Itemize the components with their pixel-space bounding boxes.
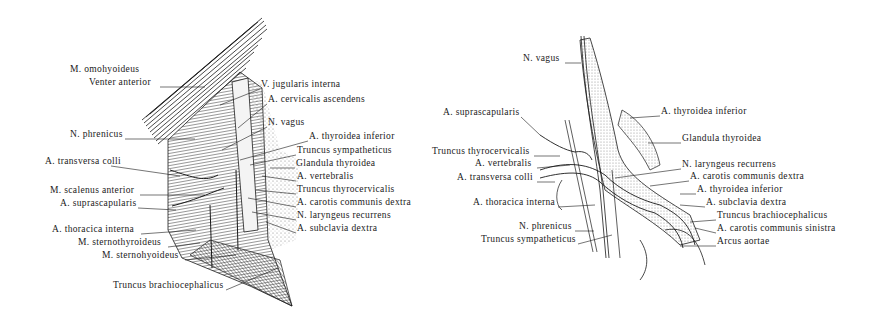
label-a-subclavia-dextra: A. subclavia dextra xyxy=(706,197,786,208)
label-truncus-sympatheticus: Truncus sympatheticus xyxy=(481,234,576,245)
label-a-vertebralis: A. vertebralis xyxy=(475,158,532,169)
label-n-vagus: N. vagus xyxy=(268,117,305,128)
label-a-thoracica-interna: A. thoracica interna xyxy=(52,224,134,235)
label-m-sternothyroideus: M. sternothyroideus xyxy=(78,237,161,248)
label-arcus-aortae: Arcus aortae xyxy=(717,236,769,247)
label-n-phrenicus: N. phrenicus xyxy=(70,129,123,140)
label-truncus-sympatheticus: Truncus sympatheticus xyxy=(297,145,392,156)
label-a-vertebralis: A. vertebralis xyxy=(297,171,354,182)
label-a-transversa-colli: A. transversa colli xyxy=(457,172,533,183)
label-n-laryngeus-recurrens: N. laryngeus recurrens xyxy=(297,210,391,221)
label-v-jugularis-interna: V. jugularis interna xyxy=(261,79,340,90)
label-a-subclavia-dextra: A. subclavia dextra xyxy=(297,223,377,234)
label-m-scalenus-anterior: M. scalenus anterior xyxy=(50,185,134,196)
label-a-thoracica-interna: A. thoracica interna xyxy=(473,197,555,208)
label-venter-anterior: Venter anterior xyxy=(89,77,151,88)
label-a-thyroidea-inferior-lower: A. thyroidea inferior xyxy=(697,184,783,195)
figure-right-neck-schematic: N. vagus A. thyroidea inferior A. supras… xyxy=(420,0,883,317)
thyroid-gland xyxy=(618,110,660,170)
label-a-suprascapularis: A. suprascapularis xyxy=(60,198,136,209)
label-n-laryngeus-recurrens: N. laryngeus recurrens xyxy=(682,159,776,170)
label-a-carotis-communis-dextra: A. carotis communis dextra xyxy=(297,197,411,208)
label-a-suprascapularis: A. suprascapularis xyxy=(443,107,519,118)
label-a-carotis-communis-sinistra: A. carotis communis sinistra xyxy=(717,223,836,234)
label-a-cervicalis-ascendens: A. cervicalis ascendens xyxy=(268,94,365,105)
label-a-transversa-colli: A. transversa colli xyxy=(45,156,121,167)
label-m-omohyoideus: M. omohyoideus xyxy=(70,64,139,75)
label-glandula-thyroidea: Glandula thyroidea xyxy=(682,133,761,144)
label-a-thyroidea-inferior-upper: A. thyroidea inferior xyxy=(661,106,747,117)
label-glandula-thyroidea: Glandula thyroidea xyxy=(296,158,375,169)
label-truncus-thyrocervicalis: Truncus thyrocervicalis xyxy=(432,146,530,157)
sternal-muscles xyxy=(190,240,292,306)
label-truncus-thyrocervicalis: Truncus thyrocervicalis xyxy=(297,184,395,195)
label-n-phrenicus: N. phrenicus xyxy=(519,221,572,232)
figure-left-neck-dissection: M. omohyoideus Venter anterior V. jugula… xyxy=(0,0,420,317)
label-m-sternohyoideus: M. sternohyoideus xyxy=(102,250,179,261)
label-a-thyroidea-inferior: A. thyroidea inferior xyxy=(309,131,395,142)
label-n-vagus: N. vagus xyxy=(523,53,560,64)
label-truncus-brachiocephalicus: Truncus brachiocephalicus xyxy=(717,210,828,221)
label-truncus-brachiocephalicus: Truncus brachiocephalicus xyxy=(113,280,224,291)
label-a-carotis-communis-dextra: A. carotis communis dextra xyxy=(690,171,804,182)
